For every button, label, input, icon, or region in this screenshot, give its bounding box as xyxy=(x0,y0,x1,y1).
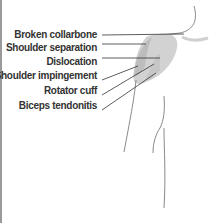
label-rotator-cuff: Rotator cuff xyxy=(44,85,97,97)
label-shoulder-separation: Shoulder separation xyxy=(6,42,97,54)
label-shoulder-impingement: Shoulder impingement xyxy=(0,70,97,82)
label-dislocation: Dislocation xyxy=(46,56,97,68)
label-biceps-tendonitis: Biceps tendonitis xyxy=(19,100,97,112)
label-broken-collarbone: Broken collarbone xyxy=(14,29,97,41)
